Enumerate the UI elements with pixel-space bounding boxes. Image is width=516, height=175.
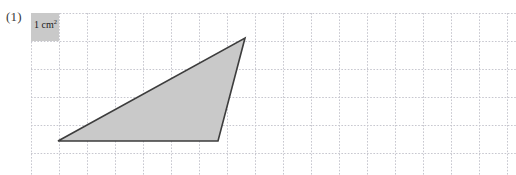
- grid-lines: [31, 13, 516, 175]
- item-number-label: (1): [6, 9, 22, 25]
- figure-panel: (1) 1 cm2: [0, 0, 516, 175]
- unit-square-label-exponent: 2: [54, 18, 57, 25]
- grid-area: [31, 13, 516, 175]
- unit-square-label-text: 1 cm: [34, 19, 54, 30]
- unit-square-label: 1 cm2: [34, 20, 57, 30]
